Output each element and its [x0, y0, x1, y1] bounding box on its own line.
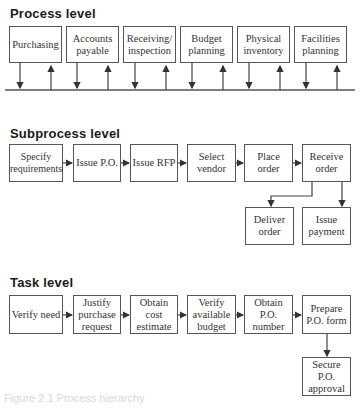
- process-box-facilities-planning: Facilities planning: [294, 26, 347, 63]
- task-level-heading: Task level: [10, 275, 73, 290]
- task-box-justify-purchase-request: Justify purchase request: [73, 295, 121, 334]
- subprocess-box-deliver-order: Deliver order: [245, 207, 294, 245]
- figure-caption: Figure 2.1 Process hierarchy: [4, 392, 145, 404]
- subprocess-box-issue-po: Issue P.O.: [73, 144, 121, 182]
- subprocess-box-issue-payment: Issue payment: [302, 207, 351, 245]
- process-box-receiving-inspection: Receiving/ inspection: [123, 26, 176, 63]
- task-box-verify-available-budget: Verify available budget: [187, 295, 236, 334]
- subprocess-box-place-order: Place order: [244, 144, 293, 182]
- process-box-physical-inventory: Physical inventory: [237, 26, 290, 63]
- process-box-budget-planning: Budget planning: [180, 26, 233, 63]
- subprocess-box-issue-rfp: Issue RFP: [130, 144, 178, 182]
- task-box-obtain-cost-estimate: Obtain cost estimate: [130, 295, 178, 334]
- process-box-accounts-payable: Accounts payable: [66, 26, 119, 63]
- subprocess-box-specify-requirements: Specify requirements: [9, 144, 63, 182]
- task-box-prepare-po-form: Prepare P.O. form: [302, 295, 351, 334]
- subprocess-box-select-vendor: Select vendor: [187, 144, 236, 182]
- process-level-heading: Process level: [10, 6, 96, 21]
- task-box-verify-need: Verify need: [9, 295, 63, 334]
- task-box-secure-po-approval: Secure P.O. approval: [302, 357, 351, 396]
- subprocess-box-receive-order: Receive order: [302, 144, 351, 182]
- subprocess-level-heading: Subprocess level: [10, 126, 120, 141]
- task-box-obtain-po-number: Obtain P.O. number: [244, 295, 293, 334]
- process-box-purchasing: Purchasing: [9, 26, 62, 63]
